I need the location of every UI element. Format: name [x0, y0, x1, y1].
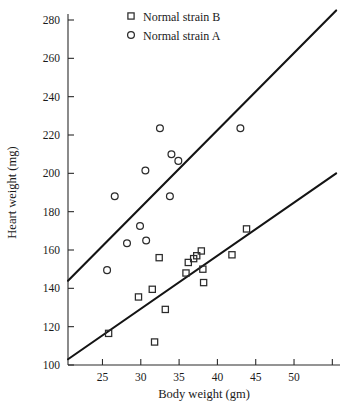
- x-tick-label: 35: [173, 371, 185, 383]
- scatter-plot-figure: 1001201401601802002202402602802530354045…: [0, 0, 356, 415]
- y-tick-label: 140: [43, 282, 61, 294]
- data-point-square: [149, 286, 155, 292]
- regression-line: [68, 10, 336, 280]
- y-tick-label: 260: [43, 52, 61, 64]
- legend-label-strain-a: Normal strain A: [143, 29, 221, 43]
- legend-marker-circle: [128, 32, 135, 39]
- y-tick-label: 160: [43, 244, 61, 256]
- plot-canvas: 1001201401601802002202402602802530354045…: [0, 0, 356, 415]
- x-tick-label: 50: [288, 371, 300, 383]
- data-point-square: [201, 279, 207, 285]
- data-point-square: [151, 339, 157, 345]
- data-point-circle: [143, 237, 150, 244]
- data-point-square: [229, 252, 235, 258]
- data-point-circle: [237, 125, 244, 132]
- data-point-square: [156, 255, 162, 261]
- data-point-circle: [137, 223, 144, 230]
- x-tick-label: 45: [250, 371, 262, 383]
- data-point-circle: [142, 167, 149, 174]
- y-tick-label: 240: [43, 91, 61, 103]
- legend-label-strain-b: Normal strain B: [143, 10, 220, 24]
- y-tick-label: 120: [43, 321, 61, 333]
- y-tick-label: 180: [43, 206, 61, 218]
- data-point-circle: [104, 267, 111, 274]
- y-tick-label: 200: [43, 167, 61, 179]
- data-point-circle: [167, 193, 174, 200]
- data-point-circle: [157, 125, 164, 132]
- x-tick-label: 30: [135, 371, 147, 383]
- data-point-circle: [168, 151, 175, 158]
- data-point-square: [162, 306, 168, 312]
- data-point-square: [243, 226, 249, 232]
- x-tick-label: 40: [212, 371, 224, 383]
- y-tick-label: 100: [43, 359, 61, 371]
- legend-marker-square: [128, 13, 134, 19]
- y-tick-label: 280: [43, 14, 61, 26]
- data-point-circle: [111, 193, 118, 200]
- data-point-circle: [124, 240, 131, 247]
- data-point-circle: [175, 157, 182, 164]
- y-tick-label: 220: [43, 129, 61, 141]
- y-axis-title: Heart weight (mg): [5, 146, 19, 238]
- data-point-square: [135, 294, 141, 300]
- x-axis-title: Body weight (gm): [158, 387, 250, 401]
- x-tick-label: 25: [97, 371, 109, 383]
